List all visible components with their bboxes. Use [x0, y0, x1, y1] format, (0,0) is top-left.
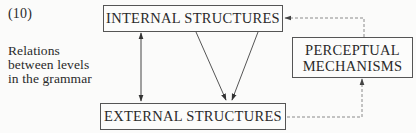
figure-caption: Relations between levels in the grammar	[8, 44, 92, 86]
node-internal-label: INTERNAL STRUCTURES	[106, 10, 280, 27]
converging-arrow-right	[232, 32, 258, 100]
node-external-label: EXTERNAL STRUCTURES	[104, 108, 282, 125]
figure-number: (10)	[8, 6, 32, 22]
dashed-arrow-perceptual-to-internal	[285, 18, 364, 37]
node-external-structures: EXTERNAL STRUCTURES	[100, 103, 286, 130]
caption-line-1: Relations	[8, 44, 92, 58]
node-internal-structures: INTERNAL STRUCTURES	[103, 5, 283, 32]
converging-arrow-left	[196, 32, 226, 100]
node-perceptual-mechanisms: PERCEPTUAL MECHANISMS	[292, 37, 413, 78]
caption-line-2: between levels	[8, 58, 92, 72]
caption-line-3: in the grammar	[8, 72, 92, 86]
dashed-arrow-external-to-perceptual	[287, 79, 362, 117]
node-perceptual-label-line1: PERCEPTUAL	[305, 42, 400, 58]
node-perceptual-label-line2: MECHANISMS	[303, 58, 403, 74]
